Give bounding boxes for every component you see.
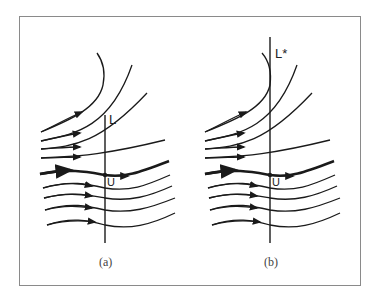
point-label-a: U xyxy=(107,176,115,188)
line-label-a: L xyxy=(109,112,116,127)
streamline-diagram xyxy=(0,0,381,301)
panel-a xyxy=(40,53,175,243)
line-label-b: L* xyxy=(275,46,287,61)
panel-b xyxy=(205,37,340,243)
caption-b: (b) xyxy=(264,255,278,270)
caption-a: (a) xyxy=(99,255,112,270)
point-label-b: U xyxy=(272,176,280,188)
